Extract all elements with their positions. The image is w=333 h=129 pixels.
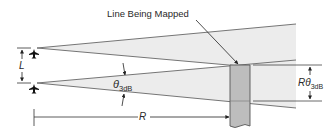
mapped-line-strip [230,65,250,128]
aircraft-icon [29,84,39,94]
beam-diagram: L θ3dB Line Being Mapped R Rθ3dB [0,0,333,129]
r-theta-label: Rθ3dB [298,77,323,90]
line-being-mapped-label: Line Being Mapped [107,8,189,19]
l-label: L [19,60,25,71]
theta-dimension: θ3dB [113,63,132,106]
r-dimension: R [34,109,229,126]
l-dimension: L [17,48,31,83]
aircraft-icon [29,49,39,59]
r-label: R [139,111,146,122]
